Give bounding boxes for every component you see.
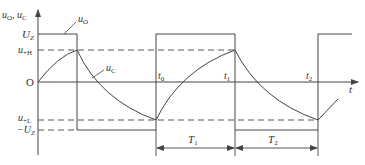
- u-plus-h-label: u+H: [18, 44, 32, 57]
- t2-label: t2: [306, 70, 313, 83]
- t0-label: t0: [158, 70, 165, 83]
- uo-curve-label: uO: [78, 13, 88, 26]
- t1-label: t1: [224, 70, 231, 83]
- T1-label: T1: [188, 133, 198, 147]
- origin-label: O: [26, 76, 34, 88]
- y-axis-label: uO, uC: [2, 9, 27, 22]
- waveform-svg: uO, uC UZ u+H O u+L −UZ uO uC t0 t1 t2 t…: [0, 0, 365, 165]
- uc-leader-line: [92, 70, 104, 78]
- neg-uz-label: −UZ: [17, 124, 35, 137]
- uz-label: UZ: [22, 28, 34, 42]
- T2-label: T2: [268, 133, 278, 147]
- x-axis-label: t: [349, 83, 353, 95]
- uo-leader-line: [64, 22, 76, 34]
- uc-capacitor-curve: [38, 50, 338, 120]
- uc-curve-label: uC: [106, 62, 116, 75]
- waveform-diagram: uO, uC UZ u+H O u+L −UZ uO uC t0 t1 t2 t…: [0, 0, 365, 165]
